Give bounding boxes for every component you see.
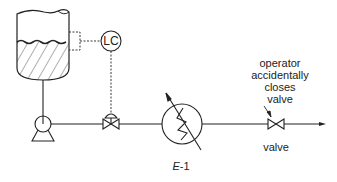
annotation-line: valve — [230, 93, 330, 105]
exchanger-label: E-1 — [166, 160, 196, 172]
annotation-line: operator — [230, 57, 330, 69]
pump-icon — [32, 116, 54, 141]
valve-label: valve — [256, 141, 296, 153]
exchanger-label-letter: E — [172, 160, 179, 172]
annotation-line: closes — [230, 81, 330, 93]
tank-icon — [17, 10, 69, 82]
heat-exchanger-icon — [162, 93, 202, 150]
pointer-arrow-icon — [264, 106, 271, 117]
exchanger-label-number: -1 — [180, 160, 190, 172]
control-valve-icon — [103, 114, 119, 129]
flow-arrow-icon — [319, 122, 326, 126]
controller-label: LC — [101, 35, 121, 47]
manual-valve-icon — [268, 119, 284, 129]
annotation-line: accidentally — [230, 69, 330, 81]
annotation-text: operator accidentally closes valve — [230, 57, 330, 105]
